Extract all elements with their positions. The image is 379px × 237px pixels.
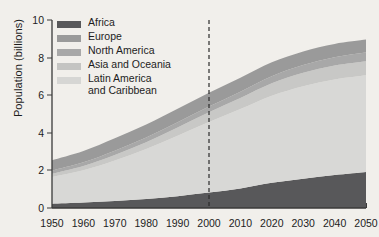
legend-item-label: Africa	[88, 17, 115, 29]
legend-swatch-icon	[57, 49, 81, 56]
legend-swatch-icon	[57, 77, 81, 84]
population-stacked-area-chart: Population (billions) 0246810 1950196019…	[0, 0, 379, 237]
legend-item[interactable]: Africa	[57, 17, 171, 29]
legend-item-label: Latin America and Caribbean	[88, 73, 157, 96]
legend-item-label: North America	[88, 45, 155, 57]
legend-swatch-icon	[57, 63, 81, 70]
legend-swatch-icon	[57, 35, 81, 42]
chart-legend: AfricaEuropeNorth AmericaAsia and Oceani…	[57, 17, 171, 99]
legend-item-label: Europe	[88, 31, 122, 43]
legend-item[interactable]: North America	[57, 45, 171, 57]
legend-swatch-icon	[57, 21, 81, 28]
legend-item[interactable]: Asia and Oceania	[57, 59, 171, 71]
legend-item[interactable]: Latin America and Caribbean	[57, 73, 171, 96]
legend-item-label: Asia and Oceania	[88, 59, 171, 71]
legend-item[interactable]: Europe	[57, 31, 171, 43]
